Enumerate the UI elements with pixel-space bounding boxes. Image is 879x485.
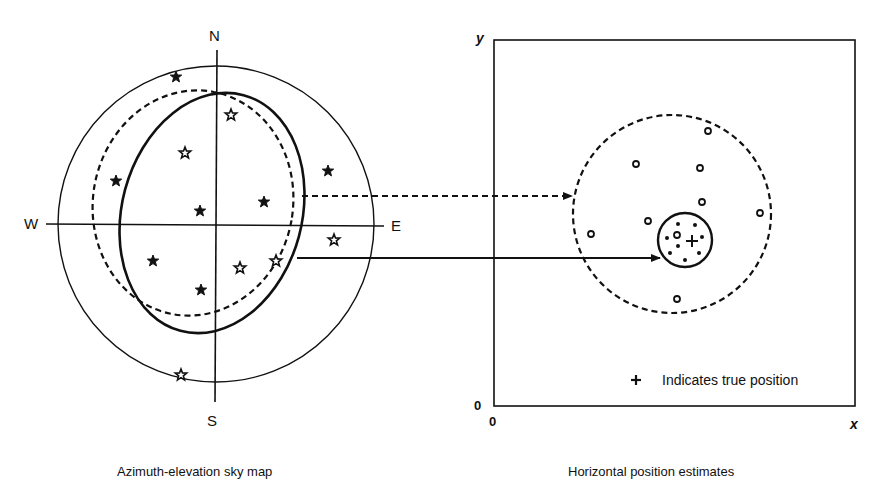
open-estimate-dot <box>705 128 711 134</box>
compass-south: S <box>207 412 217 429</box>
filled-position-estimates <box>665 222 704 262</box>
open-estimate-dot <box>633 161 639 167</box>
dashed-error-circle <box>573 115 771 313</box>
compass-east: E <box>391 217 401 234</box>
open-estimate-dot <box>588 231 594 237</box>
open-star-icon <box>234 262 245 273</box>
solid-visibility-ellipse <box>93 72 330 354</box>
diagram-canvas <box>0 0 879 485</box>
y-axis-label: y <box>476 30 484 46</box>
x-origin-label: 0 <box>489 414 496 429</box>
sky-map <box>46 50 384 402</box>
filled-estimate-dot <box>700 235 704 239</box>
connecting-arrows <box>297 196 660 258</box>
plot-frame <box>494 40 855 406</box>
legend-cross-icon <box>631 375 641 385</box>
filled-estimate-dot <box>683 258 687 262</box>
y-origin-label: 0 <box>474 398 481 413</box>
open-estimate-dot <box>697 165 703 171</box>
filled-star-icon <box>258 196 269 207</box>
filled-estimate-dot <box>697 251 701 255</box>
filled-estimate-dot <box>676 244 680 248</box>
compass-north: N <box>209 27 220 44</box>
filled-estimate-dot <box>693 223 697 227</box>
compass-west: W <box>24 215 38 232</box>
sky-map-caption: Azimuth-elevation sky map <box>117 464 272 479</box>
filled-estimate-dot <box>665 236 669 240</box>
filled-star-icon <box>195 284 206 295</box>
open-estimate-dot <box>757 210 763 216</box>
open-estimate-dot <box>674 296 680 302</box>
open-star-icon <box>328 234 339 245</box>
filled-estimate-dot <box>676 222 680 226</box>
open-star-icon <box>179 147 190 158</box>
open-estimate-dot <box>674 232 680 238</box>
position-plot <box>494 40 855 406</box>
open-star-icon <box>270 255 281 266</box>
filled-star-icon <box>110 175 121 186</box>
x-axis-label: x <box>850 416 858 432</box>
filled-estimate-dot <box>668 251 672 255</box>
filled-star-icon <box>147 255 158 266</box>
filled-star-icon <box>322 165 333 176</box>
open-star-icon <box>225 109 236 120</box>
position-estimates-caption: Horizontal position estimates <box>568 464 734 479</box>
north-south-axis <box>215 50 217 402</box>
open-estimate-dot <box>645 218 651 224</box>
true-position-cross-icon <box>686 235 698 247</box>
open-estimate-dot <box>699 199 705 205</box>
filled-star-icon <box>194 205 205 216</box>
west-east-axis <box>46 224 384 226</box>
legend-text: Indicates true position <box>662 372 798 388</box>
